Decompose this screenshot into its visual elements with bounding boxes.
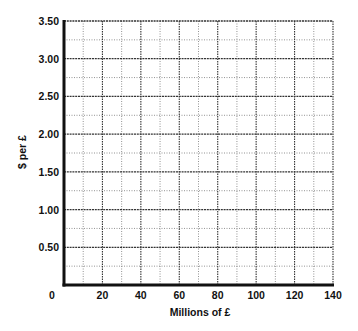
chart: 0.501.001.502.002.503.003.50 20406080100… bbox=[0, 0, 358, 331]
x-tick-label: 100 bbox=[247, 289, 265, 301]
x-tick-label: 80 bbox=[212, 289, 224, 301]
y-tick-labels: 0.501.001.502.002.503.003.50 bbox=[39, 15, 60, 253]
x-tick-label: 40 bbox=[135, 289, 147, 301]
y-tick-label: 2.50 bbox=[39, 90, 60, 102]
y-tick-label: 1.50 bbox=[39, 166, 60, 178]
y-tick-label: 3.00 bbox=[39, 53, 60, 65]
x-tick-label: 20 bbox=[97, 289, 109, 301]
x-axis-title: Millions of £ bbox=[170, 306, 231, 318]
y-tick-label: 2.00 bbox=[39, 128, 60, 140]
y-axis-title: $ per £ bbox=[16, 135, 28, 169]
grid-minor-lines bbox=[64, 21, 333, 285]
x-tick-label: 60 bbox=[173, 289, 185, 301]
x-tick-label: 120 bbox=[286, 289, 304, 301]
origin-label: 0 bbox=[49, 289, 55, 301]
x-tick-label: 140 bbox=[324, 289, 342, 301]
y-tick-label: 0.50 bbox=[39, 241, 60, 253]
x-tick-labels: 20406080100120140 bbox=[97, 289, 342, 301]
y-tick-label: 1.00 bbox=[39, 204, 60, 216]
y-tick-label: 3.50 bbox=[39, 15, 60, 27]
